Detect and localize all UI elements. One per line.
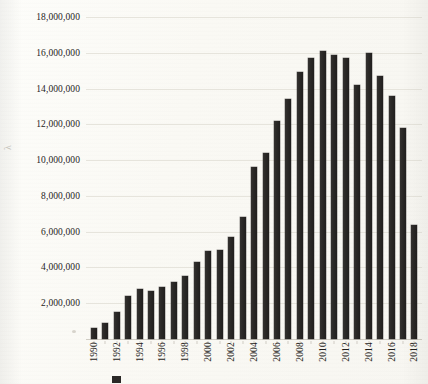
y-axis-tick-label: 18,000,000 — [6, 12, 80, 22]
bar[interactable] — [194, 262, 200, 339]
bar[interactable] — [366, 53, 372, 339]
x-axis-tick-label: 1998 — [180, 342, 190, 362]
y-axis-tick-label: 10,000,000 — [6, 155, 80, 165]
bar-slot — [351, 17, 362, 339]
bar-slot — [214, 17, 225, 339]
x-axis-tick-label: 2006 — [272, 342, 282, 362]
bar-slot — [134, 17, 145, 339]
x-axis-tick-mark — [150, 341, 151, 344]
y-axis-tick-labels: 18,000,00016,000,00014,000,00012,000,000… — [0, 0, 80, 384]
bar-slot — [363, 17, 374, 339]
x-tick-slot — [351, 341, 362, 381]
paper-smudge — [72, 330, 76, 333]
bar-slot — [145, 17, 156, 339]
x-axis-tick-label: 2010 — [318, 342, 328, 362]
legend-swatch-icon — [112, 376, 121, 383]
bar[interactable] — [331, 55, 337, 339]
bar[interactable] — [114, 312, 120, 339]
x-axis-tick-label: 2014 — [364, 342, 374, 362]
x-axis-tick-label: 1990 — [89, 342, 99, 362]
x-axis-tick-mark — [196, 341, 197, 344]
x-axis-tick-mark — [311, 341, 312, 344]
x-tick-slot — [397, 341, 408, 381]
x-tick-slot: 2016 — [386, 341, 397, 381]
x-axis-tick-mark — [219, 341, 220, 344]
bar[interactable] — [377, 76, 383, 339]
bar-slot — [237, 17, 248, 339]
bar-slot — [260, 17, 271, 339]
x-tick-slot — [99, 341, 110, 381]
x-axis-tick-label: 2018 — [409, 342, 419, 362]
bar[interactable] — [308, 58, 314, 339]
x-tick-slot — [168, 341, 179, 381]
y-axis-tick-label: 4,000,000 — [6, 262, 80, 272]
bar-slot — [111, 17, 122, 339]
x-tick-slot — [145, 341, 156, 381]
bar-slot — [374, 17, 385, 339]
bar-slot — [157, 17, 168, 339]
bar-chart: 18,000,00016,000,00014,000,00012,000,000… — [0, 0, 428, 384]
y-axis-tick-label: 6,000,000 — [6, 227, 80, 237]
bar[interactable] — [354, 85, 360, 339]
bar-slot — [317, 17, 328, 339]
bar[interactable] — [125, 296, 131, 339]
bar-slot — [340, 17, 351, 339]
bar[interactable] — [102, 323, 108, 339]
bar[interactable] — [251, 167, 257, 339]
bar[interactable] — [274, 121, 280, 339]
chart-legend — [112, 374, 127, 384]
x-axis-tick-mark — [357, 341, 358, 344]
bar-slot — [203, 17, 214, 339]
x-axis-tick-label: 2004 — [249, 342, 259, 362]
bar[interactable] — [240, 217, 246, 339]
x-tick-slot: 2004 — [248, 341, 259, 381]
y-axis-tick-label: 14,000,000 — [6, 84, 80, 94]
x-axis-tick-label: 1992 — [112, 342, 122, 362]
bar[interactable] — [171, 282, 177, 339]
bar-slot — [306, 17, 317, 339]
bar[interactable] — [159, 287, 165, 339]
bar[interactable] — [285, 99, 291, 339]
bar[interactable] — [263, 153, 269, 339]
bar[interactable] — [297, 72, 303, 339]
bar-slot — [88, 17, 99, 339]
bar[interactable] — [411, 225, 417, 339]
bar-slot — [271, 17, 282, 339]
x-axis-tick-label: 2012 — [341, 342, 351, 362]
bar[interactable] — [400, 128, 406, 339]
y-axis-tick-label: 8,000,000 — [6, 191, 80, 201]
bar-slot — [397, 17, 408, 339]
bar[interactable] — [205, 251, 211, 339]
y-axis-tick-label: 16,000,000 — [6, 48, 80, 58]
bar[interactable] — [389, 96, 395, 339]
x-tick-slot — [260, 341, 271, 381]
bar-series — [86, 17, 422, 339]
x-tick-slot: 2012 — [340, 341, 351, 381]
bar-slot — [225, 17, 236, 339]
x-axis-tick-label: 1994 — [135, 342, 145, 362]
x-axis-tick-label: 2002 — [226, 342, 236, 362]
x-tick-slot: 1994 — [134, 341, 145, 381]
bar-slot — [191, 17, 202, 339]
bar[interactable] — [343, 58, 349, 339]
x-axis-tick-mark — [334, 341, 335, 344]
x-tick-slot: 2014 — [363, 341, 374, 381]
bar-slot — [122, 17, 133, 339]
bar[interactable] — [228, 237, 234, 339]
bar-slot — [409, 17, 420, 339]
bar[interactable] — [217, 250, 223, 339]
x-tick-slot — [306, 341, 317, 381]
bar[interactable] — [320, 51, 326, 339]
bar-slot — [248, 17, 259, 339]
bar[interactable] — [91, 328, 97, 339]
x-tick-slot: 2000 — [203, 341, 214, 381]
x-axis-tick-mark — [402, 341, 403, 344]
bar[interactable] — [137, 289, 143, 339]
x-tick-slot: 2010 — [317, 341, 328, 381]
x-tick-slot: 2006 — [271, 341, 282, 381]
bar[interactable] — [182, 276, 188, 339]
x-axis-tick-label: 2000 — [203, 342, 213, 362]
x-axis-tick-label: 2016 — [387, 342, 397, 362]
y-axis-tick-label: 12,000,000 — [6, 119, 80, 129]
bar[interactable] — [148, 291, 154, 339]
